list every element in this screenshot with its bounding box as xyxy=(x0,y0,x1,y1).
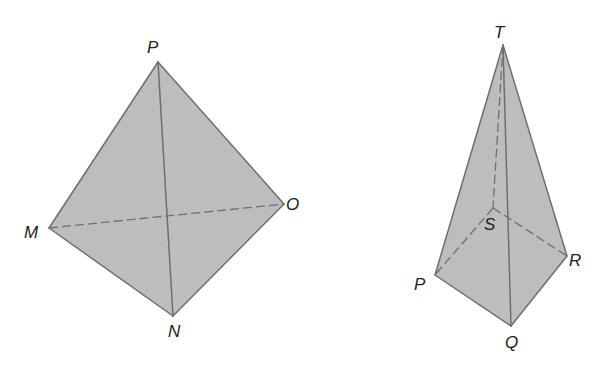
tetrahedron-figure: P M O N xyxy=(24,38,299,341)
vertex-label-P: P xyxy=(147,38,159,57)
geometry-diagram: P M O N T S P R Q xyxy=(0,0,600,373)
tetrahedron-silhouette xyxy=(49,62,284,316)
vertex-label-T: T xyxy=(494,23,506,42)
vertex-label-M: M xyxy=(24,223,39,242)
vertex-label-S: S xyxy=(484,215,496,234)
vertex-label-Q: Q xyxy=(505,333,518,352)
vertex-label-P: P xyxy=(414,275,426,294)
vertex-label-O: O xyxy=(286,195,299,214)
vertex-label-N: N xyxy=(168,322,181,341)
vertex-label-R: R xyxy=(569,251,581,270)
pyramid-figure: T S P R Q xyxy=(414,23,581,352)
